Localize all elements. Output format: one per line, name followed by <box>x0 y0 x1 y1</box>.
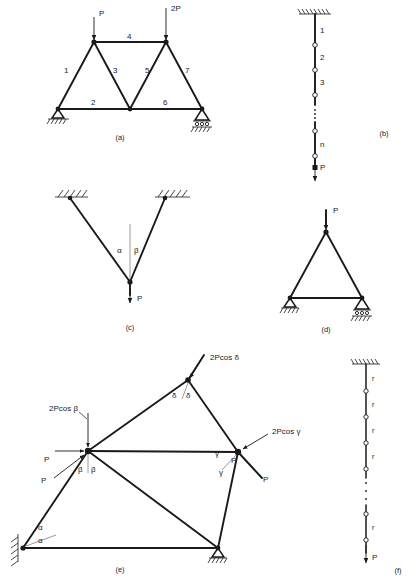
link-label-2: 2 <box>320 53 325 62</box>
angle-label-delta-1: δ <box>172 391 177 400</box>
angle-label-gamma-2: γ <box>219 468 223 477</box>
member-label-5: 5 <box>145 66 150 75</box>
angle-label-delta-2: δ <box>186 391 191 400</box>
force-label-e-P2: P <box>41 476 46 485</box>
hinge-f-5 <box>364 512 368 516</box>
force-label-e-P1: P <box>44 455 49 464</box>
member-label-6: 6 <box>163 98 168 107</box>
caption-a: (a) <box>115 133 125 142</box>
link-label-f-2: r <box>372 401 375 408</box>
panel-a-truss: P 2P 1 2 3 4 5 6 7 <box>47 4 212 142</box>
joint-e-A <box>20 545 25 550</box>
member-1 <box>58 42 94 109</box>
force-arrow-e-gamma <box>243 434 268 449</box>
force-stem-e-P3 <box>238 452 262 478</box>
member-3 <box>94 42 130 109</box>
angle-label-beta-1: β <box>78 465 83 474</box>
load-label-P: P <box>99 9 104 18</box>
angle-label-alpha-2: α <box>38 536 43 545</box>
caption-e: (e) <box>115 565 125 574</box>
hinge-3 <box>313 93 318 98</box>
caption-c: (c) <box>126 323 135 332</box>
member-label-3: 3 <box>113 66 118 75</box>
hinge-f-4 <box>364 467 368 471</box>
caption-f: (f) <box>394 566 402 575</box>
caption-d: (d) <box>321 325 331 334</box>
roller-support-d-right <box>351 298 372 321</box>
hinge-f-1 <box>364 389 368 393</box>
angle-label-beta-c: β <box>134 246 139 255</box>
member-e-DC <box>188 380 238 452</box>
hinge-1 <box>313 43 318 48</box>
hinge-f-6 <box>364 538 368 542</box>
joint-e-B <box>85 448 91 454</box>
force-label-2Pcos-delta: 2Pcos δ <box>210 353 239 362</box>
load-label-d-P: P <box>333 206 338 215</box>
bar-d-right <box>326 232 362 298</box>
hinge-f-3 <box>364 441 368 445</box>
angle-label-gamma-1: γ <box>215 449 219 458</box>
link-label-3: 3 <box>320 78 325 87</box>
hinge-5 <box>313 154 318 159</box>
angle-label-alpha-c: α <box>117 246 122 255</box>
hatched-ceiling-f <box>351 359 380 364</box>
chain-dots-f <box>365 482 367 500</box>
hinge-f-2 <box>364 415 368 419</box>
link-label-f-4: r <box>372 453 375 460</box>
force-label-e-P3: P <box>263 475 268 484</box>
bar-d-left <box>290 232 326 298</box>
leader-e-beta <box>79 412 87 419</box>
load-label-f-P: P <box>372 553 377 562</box>
bar-c-left <box>70 198 130 282</box>
truss-members <box>58 42 202 109</box>
roller-support-right <box>191 109 212 132</box>
load-label-c-P: P <box>137 294 142 303</box>
figure-plate: P 2P 1 2 3 4 5 6 7 <box>0 0 413 579</box>
link-label-f-3: r <box>372 427 375 434</box>
panel-b-chain: P 1 2 3 n (b) <box>298 9 389 181</box>
angle-label-alpha-1: α <box>38 523 43 532</box>
member-7 <box>166 42 202 109</box>
bar-c-right <box>130 198 165 282</box>
joint-d-apex <box>323 229 328 234</box>
link-label-n: n <box>320 140 324 149</box>
joint-bottom-mid <box>128 107 133 112</box>
member-e-BE <box>88 451 218 548</box>
hinge-4 <box>313 129 318 134</box>
truss-joints <box>56 39 205 111</box>
angle-label-beta-2: β <box>91 465 96 474</box>
hinge-2 <box>313 68 318 73</box>
member-5 <box>130 42 166 109</box>
panel-d-triangle: P <box>280 206 372 334</box>
hatched-pin-support-e <box>11 534 18 566</box>
panel-f-chain: P r r r r r (f) <box>351 359 402 575</box>
member-label-2: 2 <box>91 98 96 107</box>
member-label-1: 1 <box>64 66 69 75</box>
force-label-2Pcos-gamma: 2Pcos γ <box>272 427 300 436</box>
hatched-support-c-right <box>155 190 190 200</box>
chain-dots-b <box>314 109 316 119</box>
member-label-7: 7 <box>185 66 190 75</box>
member-e-CE <box>218 452 238 548</box>
joint-top-left <box>91 39 96 44</box>
member-label-4: 4 <box>127 32 132 41</box>
load-label-b-P: P <box>320 163 325 172</box>
force-arrow-e-delta <box>190 357 203 378</box>
link-label-f-1: r <box>372 375 375 382</box>
panel-e-frame: 2Pcos δ δ δ 2Pcos β P P β β 2Pcos γ P P … <box>11 353 300 574</box>
link-label-f-5: r <box>372 524 375 531</box>
load-label-2P: 2P <box>171 4 181 13</box>
figure-canvas: P 2P 1 2 3 4 5 6 7 <box>0 0 413 579</box>
joint-top-right <box>163 39 168 44</box>
link-label-1: 1 <box>320 26 325 35</box>
panel-c-two-bar: P α β (c) <box>55 190 190 332</box>
caption-b: (b) <box>379 129 389 138</box>
force-label-2Pcos-beta: 2Pcos β <box>49 404 78 413</box>
